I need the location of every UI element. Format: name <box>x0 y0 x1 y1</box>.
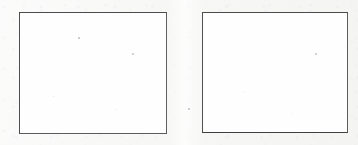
frame-left-interior <box>20 13 166 133</box>
document-page <box>0 0 358 145</box>
empty-frame-left <box>19 12 167 134</box>
page-gutter-sheen <box>168 0 204 145</box>
empty-frame-right <box>202 12 348 133</box>
ink-speck <box>188 108 190 110</box>
frame-right-interior <box>203 13 347 132</box>
